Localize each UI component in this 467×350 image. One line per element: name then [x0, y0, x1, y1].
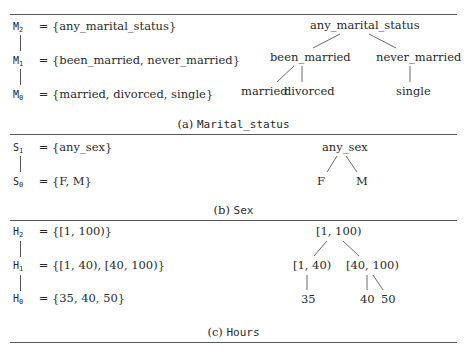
tree-node-mid: been_married — [270, 50, 351, 64]
top-rule — [10, 14, 457, 15]
tree-node-mid: never_married — [376, 50, 461, 64]
hierarchy-connector — [20, 275, 21, 291]
level-h1: H1 = {[1, 40), [40, 100)} — [13, 258, 165, 273]
hierarchy-connector — [20, 241, 21, 257]
level-h2: H2 = {[1, 100)} — [13, 224, 112, 239]
rule-after-a — [10, 134, 457, 135]
rule-after-b — [10, 220, 457, 221]
tree-node-leaf: 35 — [301, 292, 316, 306]
level-s1: S1 = {any_sex} — [13, 140, 112, 155]
tree-node-leaf: M — [356, 174, 368, 188]
tree-node-root: any_sex — [322, 140, 368, 154]
hierarchy-connector — [20, 35, 21, 51]
tree-node-leaf: 40 — [360, 292, 375, 306]
caption-a: (a) Marital_status — [0, 117, 467, 131]
tree-node-root: [1, 100) — [316, 224, 362, 238]
tree-node-root: any_marital_status — [310, 18, 420, 32]
tree-node-leaf: married — [241, 84, 288, 98]
tree-node-leaf: F — [317, 174, 325, 188]
tree-node-mid: [1, 40) — [293, 258, 331, 272]
tree-node-mid: [40, 100) — [346, 258, 399, 272]
tree-node-leaf: 50 — [381, 292, 396, 306]
hierarchy-connector — [20, 69, 21, 85]
caption-b: (b) Sex — [0, 203, 467, 217]
level-h0: H0 = {35, 40, 50} — [13, 291, 125, 306]
tree-node-leaf: divorced — [284, 84, 335, 98]
level-s0: S0 = {F, M} — [13, 174, 92, 189]
level-m1: M1 = {been_married, never_married} — [13, 53, 240, 68]
hierarchy-connector — [20, 156, 21, 172]
level-m2: M2 = {any_marital_status} — [13, 19, 176, 34]
level-m0: M0 = {married, divorced, single} — [13, 87, 213, 102]
tree-node-leaf: single — [396, 84, 431, 98]
caption-c: (c) Hours — [0, 325, 467, 339]
rule-after-c — [10, 342, 457, 343]
